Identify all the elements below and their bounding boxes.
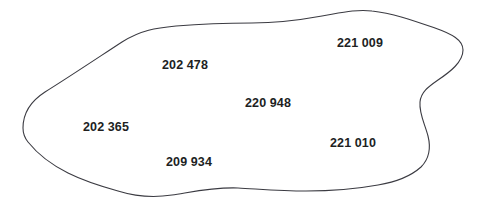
parcel-label-220948[interactable]: 220 948 <box>245 96 291 110</box>
parcel-label-221010[interactable]: 221 010 <box>330 136 376 150</box>
region-outline-svg <box>0 0 480 211</box>
parcel-label-221009[interactable]: 221 009 <box>337 36 383 50</box>
region-diagram-canvas: 202 478 221 009 220 948 202 365 221 010 … <box>0 0 480 211</box>
parcel-label-209934[interactable]: 209 934 <box>166 155 212 169</box>
region-boundary-path[interactable] <box>23 10 463 196</box>
parcel-label-202365[interactable]: 202 365 <box>83 120 129 134</box>
parcel-label-202478[interactable]: 202 478 <box>162 58 208 72</box>
